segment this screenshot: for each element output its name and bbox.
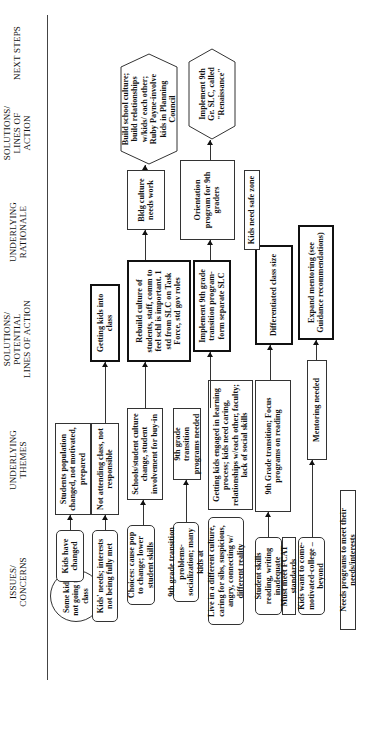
header-next-steps: NEXT STEPS (12, 18, 22, 88)
header-potential-solutions: SOLUTIONS/ POTENTIAL LINES OF ACTION (2, 300, 32, 378)
theme-mentoring: Mentoring needed (307, 360, 327, 460)
arrow-icon (102, 515, 108, 520)
arrow-icon (140, 500, 146, 505)
connector (312, 460, 313, 537)
solution-build-school-culture-label: Build school culture; build relationship… (121, 56, 178, 162)
rationale-safe-zone: Kids need safe zone (244, 170, 260, 250)
potential-9th-transition-slc: Implement 9th grade transition program-f… (193, 260, 231, 352)
issue-fcat-standards: Must meet FCAT standards (282, 537, 296, 615)
connector (210, 352, 211, 408)
arrow-icon (207, 240, 213, 245)
solution-renaissance-slc: Implement 9th Gr. SLC, called "Renaissan… (188, 48, 236, 140)
header-divider (47, 15, 48, 680)
arrow-icon (313, 340, 319, 345)
potential-expand-mentoring: Expand mentoring (see Guidance recommend… (298, 225, 334, 340)
issue-needs-not-met: Kids' needs; interests not being fully m… (92, 530, 118, 622)
potential-getting-kids-in-class: Getting kids into class (90, 284, 120, 362)
arrow-icon (67, 515, 73, 520)
connector (270, 345, 271, 380)
header-issues: ISSUES/ CONCERNS (8, 552, 28, 612)
potential-rebuild-culture: Rebuild culture of students, staff, comm… (127, 260, 191, 362)
arrow-icon (142, 165, 148, 170)
rationale-orientation: Orientation program for 9th graders (180, 160, 235, 240)
arrow-icon (267, 345, 273, 350)
potential-differentiated-class: Differentiated class size (255, 245, 293, 345)
theme-9th-reading: 9th Grade transition; Focus programs on … (255, 380, 291, 512)
issue-needs-programs: Needs programs to meet their needs/inter… (340, 490, 356, 630)
solution-renaissance-label: Implement 9th Gr. SLC, called "Renaissan… (198, 51, 227, 137)
theme-population-changed: Students population changed, not motivat… (55, 423, 91, 515)
flowchart-canvas: ISSUES/ CONCERNS UNDERLYING THEMES SOLUT… (0, 0, 368, 730)
theme-culture-change: Schools/student culture change, student … (127, 408, 163, 500)
theme-9th-transition-needed: 9th grade transition programs needed (173, 408, 201, 480)
solution-build-school-culture: Build school culture; build relationship… (120, 53, 178, 165)
connector (145, 362, 146, 408)
issue-different-culture: Live in a different culture, caring for … (208, 517, 244, 625)
arrow-icon (142, 230, 148, 235)
issue-reading-skills: Student skills reading, writing inadequa… (255, 537, 282, 615)
header-rationale: UNDERLYING RATIONALE (8, 192, 28, 272)
rationale-bldg-culture: Bldg culture needs work (127, 170, 165, 230)
arrow-icon (183, 480, 189, 485)
arrow-icon (102, 362, 108, 367)
theme-engagement: Getting kids engaged in learning process… (208, 380, 253, 510)
header-themes: UNDERLYING THEMES (8, 425, 28, 495)
issue-9th-grade-transition: 9th grade transition problems-socializat… (173, 522, 199, 602)
theme-not-attending: Not attending class, not responsible (91, 423, 119, 515)
issue-kids-changed: Kids have changed (56, 530, 84, 582)
arrow-icon (309, 460, 315, 465)
connector (186, 480, 187, 522)
arrow-icon (207, 140, 213, 145)
arrow-icon (142, 362, 148, 367)
arrow-icon (207, 352, 213, 357)
connector (105, 362, 106, 423)
arrow-icon (265, 512, 271, 517)
header-solutions: SOLUTIONS/ LINES OF ACTION (2, 101, 32, 165)
issue-kids-motivated: Kids want to come-motivated-college – be… (298, 537, 325, 615)
issue-choices: Choices: cause pop to change; lower stud… (127, 525, 155, 605)
